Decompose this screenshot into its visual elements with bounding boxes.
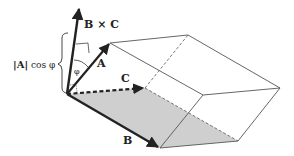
label-bxc: B × C	[84, 18, 119, 31]
right-angle-marker	[76, 43, 89, 53]
height-brace	[58, 33, 68, 93]
label-phi: φ	[74, 67, 80, 76]
parallelepiped-diagram: B × C A C B φ |A| cos φ	[0, 0, 294, 156]
phi-angle-arc	[74, 60, 88, 67]
label-b: B	[123, 134, 132, 147]
base-face	[67, 88, 238, 148]
label-c: C	[121, 72, 130, 85]
label-height-cos: cos φ	[31, 60, 55, 70]
label-height-abs: |A|	[13, 59, 28, 71]
label-a: A	[96, 57, 106, 70]
